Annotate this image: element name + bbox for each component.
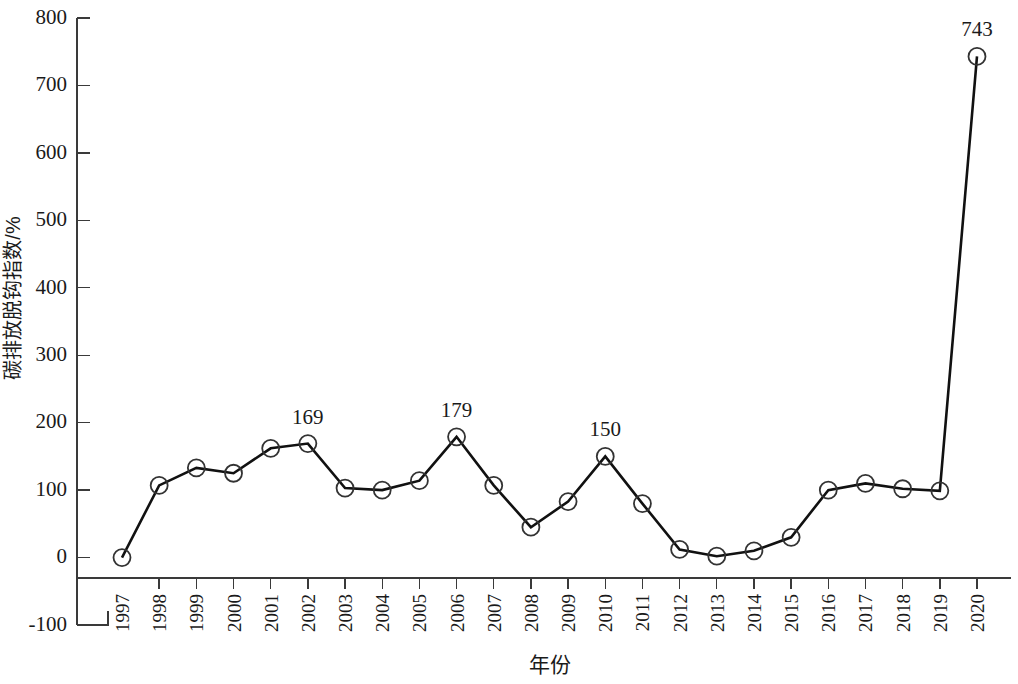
x-axis-tick-label: 2019 bbox=[930, 594, 951, 632]
chart-container: 8007006005004003002001000-100 1997199819… bbox=[0, 0, 1018, 684]
data-point-marker bbox=[783, 529, 800, 546]
data-point-marker bbox=[188, 459, 205, 476]
y-axis-tick-label: 800 bbox=[36, 5, 68, 29]
data-point-marker bbox=[299, 435, 316, 452]
y-axis-tick-label: 700 bbox=[36, 72, 68, 96]
data-series bbox=[122, 56, 977, 557]
y-axis-tick-label: -100 bbox=[29, 612, 68, 636]
data-point-marker bbox=[560, 493, 577, 510]
data-point-marker bbox=[411, 472, 428, 489]
y-axis: 8007006005004003002001000-100 bbox=[29, 5, 91, 636]
data-point-marker bbox=[745, 542, 762, 559]
x-axis-tick-label: 2001 bbox=[261, 594, 282, 632]
data-point-marker bbox=[225, 465, 242, 482]
x-axis-tick-label: 1997 bbox=[112, 594, 133, 632]
x-axis-tick-label: 2009 bbox=[558, 594, 579, 632]
x-axis-tick-label: 2005 bbox=[409, 594, 430, 632]
x-axis-title: 年份 bbox=[529, 653, 571, 676]
data-point-label: 179 bbox=[441, 398, 473, 422]
x-axis: 1997199819992000200120022003200420052006… bbox=[77, 578, 1011, 632]
data-point-marker bbox=[262, 440, 279, 457]
x-axis-tick-label: 1998 bbox=[149, 594, 170, 632]
data-point-marker bbox=[485, 477, 502, 494]
data-point-marker bbox=[522, 519, 539, 536]
data-point-marker bbox=[114, 549, 131, 566]
axis-corner-bracket bbox=[77, 611, 108, 625]
x-axis-tick-label: 2003 bbox=[335, 594, 356, 632]
y-axis-title: 碳排放脱钩指数/% bbox=[2, 216, 24, 380]
x-axis-tick-label: 2002 bbox=[298, 594, 319, 632]
data-point-marker bbox=[969, 48, 986, 65]
y-axis-tick-label: 300 bbox=[36, 342, 68, 366]
x-axis-tick-label: 2013 bbox=[707, 594, 728, 632]
data-point-marker bbox=[708, 548, 725, 565]
data-point-label: 743 bbox=[961, 17, 993, 41]
x-axis-tick-label: 2006 bbox=[447, 594, 468, 632]
data-markers bbox=[114, 48, 986, 566]
data-point-marker bbox=[857, 475, 874, 492]
data-point-marker bbox=[820, 482, 837, 499]
x-axis-tick-label: 2012 bbox=[670, 594, 691, 632]
line-chart: 8007006005004003002001000-100 1997199819… bbox=[0, 0, 1018, 684]
y-axis-tick-label: 100 bbox=[36, 477, 68, 501]
y-axis-tick-label: 600 bbox=[36, 140, 68, 164]
data-point-marker bbox=[374, 482, 391, 499]
x-axis-tick-label: 2011 bbox=[632, 594, 653, 631]
y-axis-tick-label: 200 bbox=[36, 409, 68, 433]
y-axis-tick-label: 500 bbox=[36, 207, 68, 231]
data-point-label: 150 bbox=[590, 417, 622, 441]
data-point-marker bbox=[671, 541, 688, 558]
x-axis-tick-label: 2018 bbox=[893, 594, 914, 632]
x-axis-tick-label: 2000 bbox=[224, 594, 245, 632]
series-polyline bbox=[122, 56, 977, 557]
data-point-label: 169 bbox=[292, 405, 324, 429]
y-axis-tick-label: 400 bbox=[36, 275, 68, 299]
data-point-marker bbox=[894, 480, 911, 497]
x-axis-tick-label: 2020 bbox=[967, 594, 988, 632]
x-axis-tick-label: 2016 bbox=[818, 594, 839, 632]
data-point-marker bbox=[931, 482, 948, 499]
x-axis-tick-label: 2014 bbox=[744, 594, 765, 633]
x-axis-tick-label: 2017 bbox=[855, 594, 876, 632]
data-point-marker bbox=[151, 477, 168, 494]
x-axis-tick-label: 2010 bbox=[595, 594, 616, 632]
x-axis-tick-label: 1999 bbox=[186, 594, 207, 632]
data-labels: 169179150743 bbox=[292, 17, 993, 441]
data-point-marker bbox=[448, 428, 465, 445]
data-point-marker bbox=[634, 495, 651, 512]
y-axis-tick-label: 0 bbox=[57, 544, 68, 568]
x-axis-tick-label: 2004 bbox=[372, 594, 393, 633]
x-axis-tick-label: 2007 bbox=[484, 594, 505, 632]
x-axis-tick-label: 2008 bbox=[521, 594, 542, 632]
data-point-marker bbox=[337, 480, 354, 497]
x-axis-tick-label: 2015 bbox=[781, 594, 802, 632]
data-point-marker bbox=[597, 448, 614, 465]
